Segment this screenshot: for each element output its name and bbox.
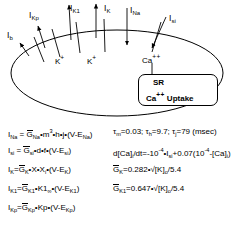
ion-label-calcium: Ca++ bbox=[142, 54, 161, 65]
arrow-IKp bbox=[38, 26, 45, 48]
sr-title: SR bbox=[153, 79, 164, 87]
equation-ina-lhs: INa = GNa•m3•h•j•(V-ENa) bbox=[8, 128, 93, 139]
current-arrows bbox=[20, 4, 166, 83]
equation-row-ik: IK=GK•X•Xi•(V-EK) GK=0.282•√[K]o/5.4 bbox=[0, 166, 234, 184]
equation-row-isi: Isi = Gsi•d•f•(V-Esi) d[Ca]i/dt=-10-4•Is… bbox=[0, 147, 234, 165]
ion-label-potassium-2: K+ bbox=[87, 55, 97, 66]
equation-ik1-lhs: IK1=GK1•K1∞•(V-EK1) bbox=[8, 185, 79, 194]
current-label-INa: INa bbox=[130, 6, 140, 15]
current-label-IKp: IKp bbox=[29, 11, 39, 20]
current-label-IK1: IK1 bbox=[70, 4, 80, 13]
equation-ik1-rhs: GK1=0.647•√[K]o/5.4 bbox=[113, 185, 184, 194]
equation-isi-rhs: d[Ca]i/dt=-10-4•Isi+0.07(10-4-[Ca]i) bbox=[113, 147, 231, 158]
current-label-IK: IK bbox=[104, 4, 110, 13]
equation-ikp-lhs: IKp=GKp•Kp•(V-EKp) bbox=[8, 204, 75, 213]
sr-caption: Ca++ Uptake bbox=[146, 92, 194, 103]
equation-isi-lhs: Isi = Gsi•d•f•(V-Esi) bbox=[8, 147, 71, 156]
equation-ik-rhs: GK=0.282•√[K]o/5.4 bbox=[113, 166, 181, 175]
equation-row-ik1: IK1=GK1•K1∞•(V-EK1) GK1=0.647•√[K]o/5.4 bbox=[0, 185, 234, 203]
current-label-Isi: Isi bbox=[169, 14, 176, 23]
equation-ik-lhs: IK=GK•X•Xi•(V-EK) bbox=[8, 166, 71, 175]
ion-label-potassium-1: K+ bbox=[55, 55, 65, 66]
current-label-Ib: Ib bbox=[7, 31, 13, 40]
equations-block: INa = GNa•m3•h•j•(V-ENa) τm=0.03; τh=9.7… bbox=[0, 124, 234, 235]
equation-row-ikp: IKp=GKp•Kp•(V-EKp) bbox=[0, 204, 234, 222]
equation-row-ina: INa = GNa•m3•h•j•(V-ENa) τm=0.03; τh=9.7… bbox=[0, 128, 234, 146]
cell-diagram: Ib IKp IK1 IK INa Isi K+ K+ Ca++ SR Ca++… bbox=[0, 0, 234, 124]
sr-uptake-box: SR Ca++ Uptake bbox=[138, 74, 218, 106]
figure-root: Ib IKp IK1 IK INa Isi K+ K+ Ca++ SR Ca++… bbox=[0, 0, 234, 235]
equation-ina-rhs: τm=0.03; τh=9.7; τj=79 (msec) bbox=[113, 128, 217, 137]
